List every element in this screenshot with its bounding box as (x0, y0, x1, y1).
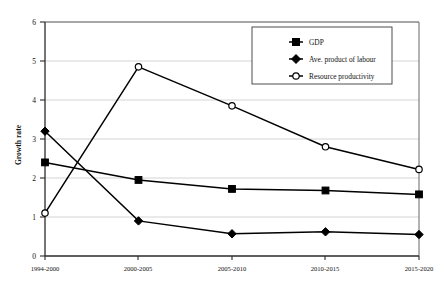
legend-label-ave-product-of-labour: Ave. product of labour (309, 55, 376, 64)
data-point-open-circle (229, 103, 235, 109)
data-point-filled-square (229, 186, 236, 193)
x-tick-label-4: 2015-2020 (405, 265, 434, 272)
y-tick-label-4: 4 (32, 96, 36, 105)
y-tick-label-6: 6 (32, 18, 36, 27)
open-circle-icon (293, 73, 299, 79)
x-tick-label-1: 2000-2005 (124, 265, 153, 272)
y-tick-label-3: 3 (32, 135, 36, 144)
growth-rate-line-chart: 6 5 4 3 2 1 0 Growth rate 1994-2000 2000… (0, 0, 446, 294)
x-tick-label-3: 2010-2015 (311, 265, 340, 272)
data-point-open-circle (135, 64, 141, 70)
data-point-filled-square (135, 177, 142, 184)
data-point-filled-square (42, 159, 49, 166)
data-point-open-circle (416, 166, 422, 172)
y-tick-labels: 6 5 4 3 2 1 0 (32, 18, 36, 261)
data-point-open-circle (42, 210, 48, 216)
y-tick-marks (40, 22, 45, 256)
y-tick-label-1: 1 (32, 213, 36, 222)
data-point-open-circle (322, 144, 328, 150)
x-tick-labels: 1994-2000 2000-2005 2005-2010 2010-2015 … (31, 265, 434, 272)
data-point-filled-square (322, 187, 329, 194)
x-tick-label-0: 1994-2000 (31, 265, 60, 272)
chart-legend: GDP Ave. product of labour Resource prod… (252, 27, 392, 84)
legend-label-gdp: GDP (309, 38, 324, 47)
data-point-filled-square (416, 191, 423, 198)
filled-square-icon (293, 39, 300, 46)
x-tick-label-2: 2005-2010 (218, 265, 247, 272)
y-axis-title: Growth rate (14, 124, 23, 165)
y-tick-label-0: 0 (32, 252, 36, 261)
legend-label-resource-productivity: Resource productivity (309, 72, 375, 81)
y-tick-label-5: 5 (32, 57, 36, 66)
y-tick-label-2: 2 (32, 174, 36, 183)
chart-container: 6 5 4 3 2 1 0 Growth rate 1994-2000 2000… (0, 0, 446, 294)
